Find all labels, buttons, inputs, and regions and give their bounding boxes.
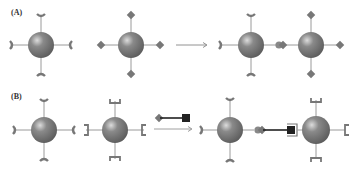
sphere-bracket-receptors-b [84,99,146,161]
bound-dimer-a [219,11,344,78]
diagram [0,0,360,171]
sphere-y-receptors-a [10,14,72,76]
linked-dimer-b [200,98,349,162]
reaction-arrow-b [154,127,192,132]
linker-molecule [155,114,190,122]
sphere-y-receptors-b [13,99,75,161]
sphere-diamond-ligands-a [97,11,164,78]
reaction-arrow-a [176,43,207,48]
